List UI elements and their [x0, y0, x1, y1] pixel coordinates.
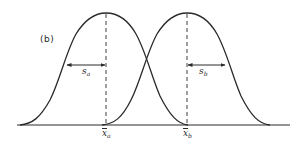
mean-label-b: xb [183, 129, 192, 139]
sd-label-b-subscript: b [204, 70, 208, 77]
mean-label-b-subscript: b [188, 132, 192, 139]
mean-label-a: xa [102, 129, 111, 139]
mean-label-b-symbol: x [183, 129, 188, 138]
curve-b [102, 13, 270, 125]
sd-label-a: sa [82, 67, 90, 77]
curve-a [20, 13, 188, 125]
sd-label-a-subscript: a [87, 70, 91, 77]
mean-label-a-subscript: a [107, 132, 111, 139]
mean-label-a-symbol: x [102, 129, 107, 138]
overlapping-distributions-diagram [0, 0, 302, 142]
panel-label: (b) [40, 35, 54, 44]
sd-label-b: sb [199, 67, 207, 77]
